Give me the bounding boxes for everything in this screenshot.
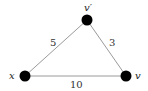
graph-diagram: v′ x v 5 3 10 — [0, 0, 148, 91]
node-label-v: v — [135, 70, 141, 81]
edge-x-vprime — [25, 20, 87, 76]
edge-vprime-v — [87, 20, 126, 76]
edge-weight-x-v: 10 — [70, 79, 83, 90]
node-label-x: x — [9, 70, 15, 81]
node-vprime — [82, 15, 93, 26]
edge-weight-vprime-v: 3 — [109, 37, 115, 48]
edge-weight-x-vprime: 5 — [50, 37, 56, 48]
node-x — [20, 71, 31, 82]
node-v — [121, 71, 132, 82]
node-label-vprime: v′ — [84, 2, 93, 13]
